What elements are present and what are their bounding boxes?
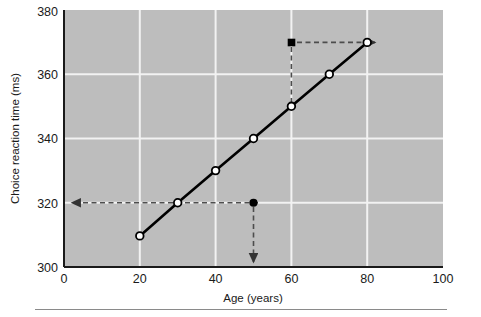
x-tick-label-60: 60: [284, 272, 298, 286]
x-tick-label-100: 100: [433, 272, 454, 286]
extrapolation-marker-filled-square: [288, 39, 296, 47]
figure-container: 380 360 340 320 300 0 20 40 60 80 100 Ag…: [0, 0, 481, 317]
y-tick-label-320: 320: [37, 197, 58, 211]
data-point-50-340: [250, 135, 258, 143]
y-tick-label-300: 300: [37, 261, 58, 275]
x-tick-label-0: 0: [61, 272, 68, 286]
data-point-80-370: [363, 39, 371, 47]
y-tick-label-380: 380: [37, 5, 58, 19]
x-tick-label-20: 20: [133, 272, 147, 286]
data-point-20-310: [136, 232, 144, 240]
y-tick-label-340: 340: [37, 132, 58, 146]
y-tick-label-360: 360: [37, 68, 58, 82]
interpolation-marker-filled-circle: [249, 199, 257, 207]
data-point-70-360: [326, 70, 334, 78]
x-tick-label-40: 40: [209, 272, 223, 286]
data-point-30-320: [174, 199, 182, 207]
x-axis-title: Age (years): [223, 292, 283, 304]
choice-reaction-time-chart: 380 360 340 320 300 0 20 40 60 80 100 Ag…: [0, 0, 481, 317]
y-axis-title: Choice reaction time (ms): [9, 73, 21, 204]
data-point-40-330: [212, 167, 220, 175]
data-point-60-350: [288, 103, 296, 111]
x-tick-label-80: 80: [360, 272, 374, 286]
caption-divider-rule: [35, 309, 447, 310]
